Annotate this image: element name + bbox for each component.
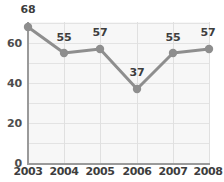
data-series-line — [0, 0, 224, 182]
x-axis-tick-label: 2006 — [121, 166, 153, 178]
data-point-marker — [24, 23, 32, 31]
data-point-marker — [169, 49, 177, 57]
x-axis-tick-label: 2003 — [12, 166, 44, 178]
x-axis-tick-label: 2004 — [48, 166, 80, 178]
data-point-marker — [60, 49, 68, 57]
data-point-label: 68 — [16, 4, 40, 15]
x-axis-tick-label: 2005 — [84, 166, 116, 178]
data-point-label: 57 — [196, 27, 220, 38]
data-point-label: 57 — [88, 27, 112, 38]
data-point-label: 55 — [52, 32, 76, 43]
data-point-label: 55 — [161, 32, 185, 43]
data-point-marker — [133, 85, 141, 93]
line-chart: 0 20 40 60 68 55 57 37 55 57 2003 2004 2… — [0, 0, 224, 182]
data-point-marker — [96, 45, 104, 53]
data-point-marker — [205, 45, 213, 53]
x-axis-tick-label: 2008 — [192, 166, 224, 178]
data-point-label: 37 — [125, 67, 149, 78]
x-axis-tick-label: 2007 — [157, 166, 189, 178]
